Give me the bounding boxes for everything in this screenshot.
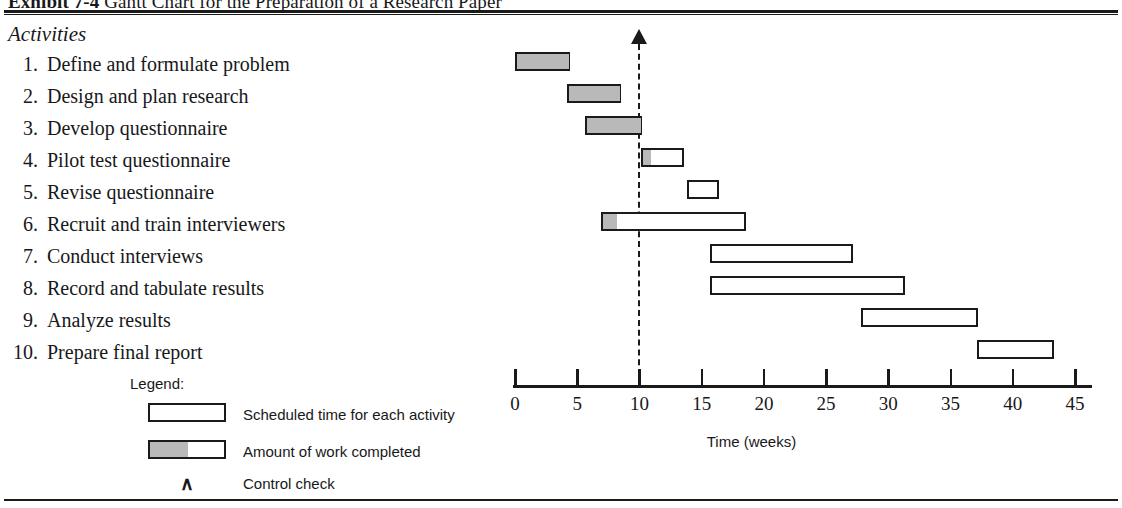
x-axis-line xyxy=(513,385,1092,388)
x-axis-tick-20 xyxy=(763,369,766,385)
x-axis-tick-label-20: 20 xyxy=(754,393,773,415)
x-axis-tick-label-25: 25 xyxy=(817,393,836,415)
x-axis-tick-label-45: 45 xyxy=(1066,393,1085,415)
x-axis-tick-label-0: 0 xyxy=(510,393,520,415)
gantt-bar-3[interactable] xyxy=(585,116,642,135)
gantt-bar-6[interactable] xyxy=(601,212,747,231)
x-axis-tick-10 xyxy=(638,369,641,385)
x-axis-title: Time (weeks) xyxy=(707,433,796,450)
gantt-bar-9[interactable] xyxy=(861,308,978,327)
gantt-bar-5[interactable] xyxy=(687,180,719,199)
gantt-bar-4-completed-fill xyxy=(643,150,652,165)
gantt-bar-7[interactable] xyxy=(710,244,853,263)
x-axis-tick-15 xyxy=(701,369,704,385)
legend-title: Legend: xyxy=(130,375,184,392)
legend-swatch-completed-fill xyxy=(150,442,188,457)
x-axis-tick-label-5: 5 xyxy=(572,393,582,415)
x-axis-tick-label-40: 40 xyxy=(1003,393,1022,415)
exhibit-sheet: Exhibit 7-4 Gantt Chart for the Preparat… xyxy=(0,0,1122,508)
x-axis-tick-25 xyxy=(825,369,828,385)
gantt-bar-10[interactable] xyxy=(977,340,1054,359)
x-axis-tick-label-30: 30 xyxy=(879,393,898,415)
x-axis-tick-5 xyxy=(576,369,579,385)
x-axis-tick-0 xyxy=(514,369,517,385)
gantt-bar-8[interactable] xyxy=(710,276,904,295)
x-axis-tick-45 xyxy=(1074,369,1077,385)
legend-swatch-scheduled xyxy=(148,403,226,422)
gantt-plot-area: 051015202530354045 Time (weeks) xyxy=(0,0,1122,508)
gantt-bar-1-completed-fill xyxy=(517,54,569,69)
control-check-caret-icon: ∧ xyxy=(180,472,194,495)
legend-label-scheduled: Scheduled time for each activity xyxy=(243,406,455,423)
x-axis-tick-40 xyxy=(1012,369,1015,385)
x-axis-tick-label-10: 10 xyxy=(630,393,649,415)
x-axis-tick-label-15: 15 xyxy=(692,393,711,415)
gantt-bar-2-completed-fill xyxy=(569,86,620,101)
x-axis-tick-label-35: 35 xyxy=(941,393,960,415)
gantt-bar-2[interactable] xyxy=(567,84,621,103)
gantt-bar-6-completed-fill xyxy=(603,214,617,229)
x-axis-tick-30 xyxy=(887,369,890,385)
legend-label-completed: Amount of work completed xyxy=(243,443,421,460)
legend-swatch-completed xyxy=(148,440,226,459)
gantt-bar-4[interactable] xyxy=(641,148,685,167)
x-axis-tick-35 xyxy=(950,369,953,385)
legend-label-control: Control check xyxy=(243,475,335,492)
gantt-bar-1[interactable] xyxy=(515,52,570,71)
gantt-bar-3-completed-fill xyxy=(587,118,642,133)
control-check-arrow-icon xyxy=(631,29,647,44)
